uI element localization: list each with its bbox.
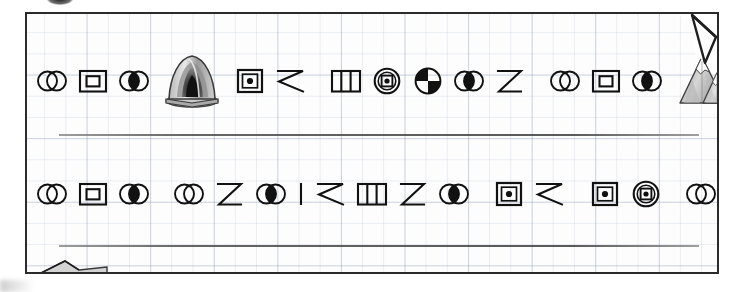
glyph-zigzag-z [493, 64, 527, 98]
glyph-word [172, 177, 471, 211]
glyph-circles-outline [548, 64, 582, 98]
glyph-zigzag-z [396, 177, 430, 211]
glyph-circles-outline [35, 177, 69, 211]
ruled-line-1 [59, 134, 699, 136]
glyph-word [35, 64, 151, 98]
glyph-circles-lens-filled [254, 177, 288, 211]
glyph-three-bars [355, 177, 389, 211]
glyph-line-1 [35, 58, 719, 104]
glyph-circles-lens-filled [437, 177, 471, 211]
glyph-line-2 [35, 171, 719, 217]
glyph-word [233, 64, 308, 98]
glyph-word [684, 177, 719, 211]
glyph-vertical-bar [295, 177, 307, 211]
glyph-circles-outline [172, 177, 206, 211]
glyph-square-dot [492, 177, 526, 211]
glyph-zigzag-z [314, 177, 348, 211]
glyph-circles-lens-filled [452, 64, 486, 98]
graph-grid-major [27, 14, 717, 272]
glyph-word [492, 177, 567, 211]
glyph-square-dot [588, 177, 622, 211]
glyph-square-in-square [589, 64, 623, 98]
paper-sheet [25, 12, 719, 274]
glyph-zigzag-z [533, 177, 567, 211]
glyph-word [329, 64, 527, 98]
glyph-word [588, 177, 663, 211]
glyph-zigzag-z [274, 64, 308, 98]
glyph-square-in-square [76, 177, 110, 211]
glyph-circles-lens-filled [630, 64, 664, 98]
torn-flap-icon [39, 254, 109, 274]
glyph-word [548, 64, 664, 98]
glyph-circle-square-dot [629, 177, 663, 211]
glyph-word [35, 177, 151, 211]
ink-smudge [47, 0, 73, 5]
ruled-line-2 [59, 245, 699, 247]
glyph-square-dot [233, 64, 267, 98]
glyph-circles-outline [35, 64, 69, 98]
glyph-circles-lens-filled [117, 64, 151, 98]
glyph-circle-square-dot [370, 64, 404, 98]
glyph-zigzag-z [213, 177, 247, 211]
glyph-square-in-square [76, 64, 110, 98]
glyph-circles-outline [684, 177, 718, 211]
glyph-three-bars [329, 64, 363, 98]
glyph-quartered-circle [411, 64, 445, 98]
paper-shadow [0, 280, 34, 292]
folded-corner-icon [672, 13, 718, 65]
glyph-circles-lens-filled [117, 177, 151, 211]
picture-tent-cave [161, 53, 223, 109]
